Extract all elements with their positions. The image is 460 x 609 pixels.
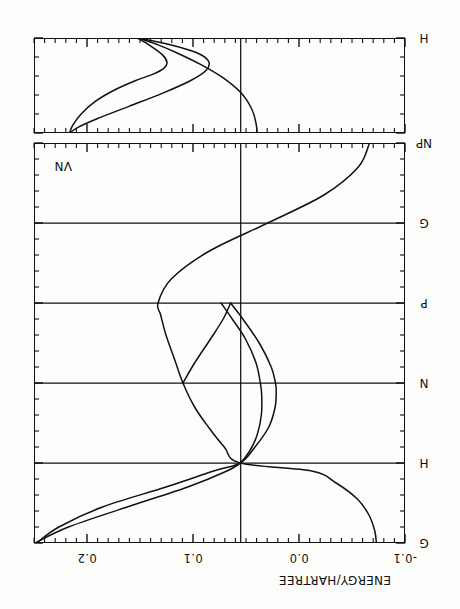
kpoint-label: NP bbox=[413, 136, 435, 150]
energy-tick-label: -0.1 bbox=[393, 551, 417, 565]
figure-canvas: -0.10.00.10.2GHNPGNPH ENERGY/HARTREE VN bbox=[0, 0, 460, 609]
band-structure-figure: -0.10.00.10.2GHNPGNPH ENERGY/HARTREE VN bbox=[0, 0, 460, 609]
kpoint-label: H bbox=[413, 31, 435, 45]
kpoint-label: N bbox=[413, 376, 435, 390]
kpoint-label: G bbox=[413, 536, 435, 550]
kpoint-label: P bbox=[413, 296, 435, 310]
panel-corner-tag: VN bbox=[54, 159, 72, 173]
kpoint-label: G bbox=[413, 216, 435, 230]
energy-tick-label: 0.1 bbox=[183, 551, 203, 565]
energy-tick-label: 0.0 bbox=[289, 551, 309, 565]
energy-tick-label: 0.2 bbox=[77, 551, 97, 565]
y-axis-title: ENERGY/HARTREE bbox=[279, 573, 391, 587]
main-panel-curves bbox=[0, 0, 460, 609]
kpoint-label: H bbox=[413, 456, 435, 470]
